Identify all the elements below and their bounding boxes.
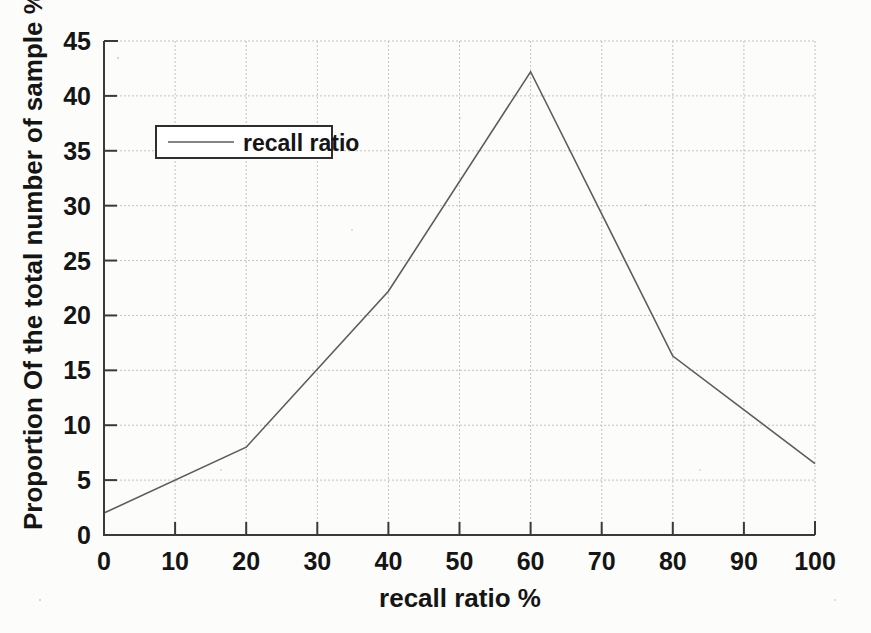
- y-tick-label: 40: [63, 82, 91, 110]
- x-tick-label: 30: [303, 547, 331, 575]
- x-tick-label: 100: [794, 547, 836, 575]
- y-tick-label: 15: [63, 356, 91, 384]
- y-tick-label: 0: [77, 521, 91, 549]
- y-tick-label: 35: [63, 137, 91, 165]
- chart-figure: 051015202530354045 010203040506070809010…: [0, 0, 871, 633]
- figure-background: [0, 0, 871, 633]
- chart-legend[interactable]: recall ratio: [156, 126, 359, 158]
- x-tick-label: 20: [232, 547, 260, 575]
- y-axis-title: Proportion Of the total number of sample…: [18, 0, 48, 530]
- x-tick-label: 70: [588, 547, 616, 575]
- x-tick-label: 40: [374, 547, 402, 575]
- y-tick-label: 30: [63, 192, 91, 220]
- chart-canvas: 051015202530354045 010203040506070809010…: [0, 0, 871, 633]
- y-tick-label: 45: [63, 27, 91, 55]
- x-tick-label: 80: [659, 547, 687, 575]
- x-tick-label: 0: [97, 547, 111, 575]
- x-tick-label: 90: [730, 547, 758, 575]
- x-axis-title: recall ratio %: [379, 583, 541, 613]
- y-tick-label: 5: [77, 466, 91, 494]
- x-axis-title-group: recall ratio %: [379, 583, 541, 613]
- x-tick-label: 10: [161, 547, 189, 575]
- y-tick-label: 20: [63, 301, 91, 329]
- x-tick-label: 60: [517, 547, 545, 575]
- x-tick-label: 50: [446, 547, 474, 575]
- y-tick-label: 10: [63, 411, 91, 439]
- y-axis-title-group: Proportion Of the total number of sample…: [18, 0, 48, 530]
- legend-entry-label: recall ratio: [243, 130, 359, 156]
- y-tick-label: 25: [63, 247, 91, 275]
